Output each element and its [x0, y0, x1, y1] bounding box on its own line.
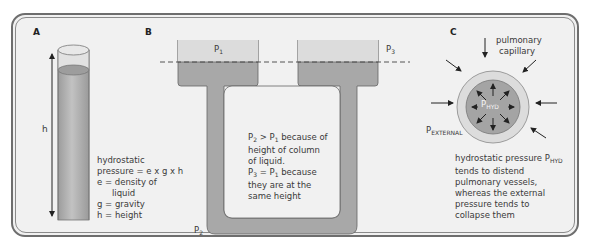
p2-label: P2	[194, 225, 203, 238]
formula-line: g = gravity	[97, 199, 183, 210]
formula-line: h = height	[97, 210, 183, 221]
formula-line: hydrostatic	[97, 155, 183, 166]
hydrostatic-formula: hydrostatic pressure = e x g x h e = den…	[97, 155, 183, 221]
p-external-label: PEXTERNAL	[426, 125, 463, 138]
formula-line: pressure = e x g x h	[97, 166, 183, 177]
panel-b-label: B	[145, 27, 152, 37]
capillary-description: hydrostatic pressure PHYD tends to diste…	[455, 153, 563, 221]
panel-a-label: A	[33, 27, 40, 37]
p-hyd-label: PHYD	[481, 99, 499, 112]
p3-label: P3	[386, 44, 395, 57]
capillary-label: pulmonary capillary	[496, 35, 542, 57]
height-label: h	[42, 124, 48, 135]
formula-line: e = density of	[97, 177, 183, 188]
tube-column	[58, 45, 89, 220]
u-tube-explanation: P2 > P1 because of height of column of l…	[248, 132, 328, 202]
panel-c-label: C	[450, 27, 457, 37]
p1-label: P1	[214, 44, 223, 57]
formula-line: liquid	[97, 188, 183, 199]
